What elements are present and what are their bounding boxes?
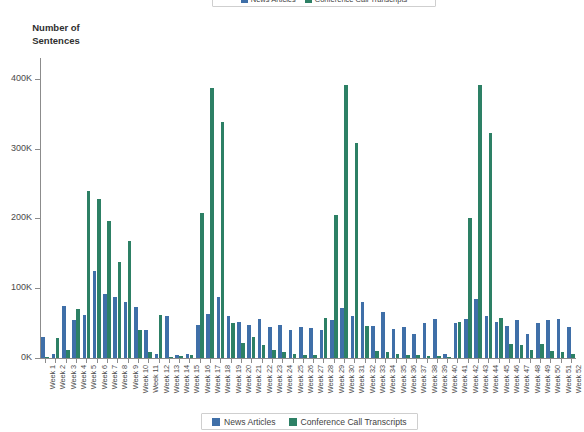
x-axis-tick-label: Week 49: [543, 365, 552, 393]
bar-news-articles: [464, 319, 468, 358]
y-axis-tick-label: 100K: [0, 282, 32, 292]
x-axis-tick-label: Week 32: [368, 365, 377, 393]
x-axis-tick-label: Week 28: [326, 365, 335, 393]
bar-conference-call-transcripts: [427, 356, 431, 358]
x-axis-tick-label: Week 19: [234, 365, 243, 393]
x-axis-tick-label: Week 30: [347, 365, 356, 393]
bar-conference-call-transcripts: [303, 355, 307, 358]
x-axis-tick-label: Week 25: [296, 365, 305, 393]
bar-conference-call-transcripts: [128, 241, 132, 358]
x-axis-tick: [468, 359, 469, 363]
bar-conference-call-transcripts: [447, 357, 451, 358]
x-axis-tick-label: Week 38: [430, 365, 439, 393]
x-axis-tick: [375, 359, 376, 363]
bar-conference-call-transcripts: [365, 326, 369, 358]
bar-conference-call-transcripts: [520, 345, 524, 358]
bar-news-articles: [289, 330, 293, 358]
bar-news-articles: [433, 319, 437, 358]
x-axis-tick-label: Week 27: [316, 365, 325, 393]
x-axis-tick: [427, 359, 428, 363]
x-axis-tick: [334, 359, 335, 363]
x-axis-tick-label: Week 3: [69, 365, 78, 389]
bar-news-articles: [351, 316, 355, 358]
x-axis-tick-label: Week 7: [110, 365, 119, 389]
bar-news-articles: [495, 322, 499, 358]
x-axis-tick: [272, 359, 273, 363]
bar-conference-call-transcripts: [375, 351, 379, 358]
x-axis-tick-label: Week 5: [89, 365, 98, 389]
x-axis-tick: [138, 359, 139, 363]
bar-news-articles: [206, 314, 210, 358]
bar-news-articles: [72, 320, 76, 358]
bar-conference-call-transcripts: [355, 143, 359, 358]
bar-conference-call-transcripts: [169, 357, 173, 358]
y-axis-tick-label: 0K: [0, 352, 32, 362]
x-axis-tick-label: Week 29: [337, 365, 346, 393]
x-axis-tick-label: Week 14: [182, 365, 191, 393]
x-axis-tick-label: Week 37: [419, 365, 428, 393]
legend-bottom-label-news: News Articles: [224, 417, 276, 427]
bar-conference-call-transcripts: [293, 354, 297, 358]
bar-news-articles: [361, 302, 365, 358]
legend-bottom-item-news: News Articles: [212, 417, 276, 427]
x-axis-tick: [365, 359, 366, 363]
x-axis-tick-label: Week 34: [388, 365, 397, 393]
legend-top: News Articles Conference Call Transcript…: [212, 0, 436, 7]
bar-conference-call-transcripts: [56, 338, 60, 358]
bar-news-articles: [423, 323, 427, 358]
x-axis-tick-label: Week 12: [162, 365, 171, 393]
x-axis-tick: [66, 359, 67, 363]
x-axis-tick: [385, 359, 386, 363]
x-axis-tick-label: Week 48: [533, 365, 542, 393]
x-axis-tick: [509, 359, 510, 363]
y-axis-tick: [35, 358, 40, 359]
bar-news-articles: [392, 329, 396, 358]
legend-bottom-item-calls: Conference Call Transcripts: [289, 417, 407, 427]
x-axis-tick-label: Week 45: [502, 365, 511, 393]
bar-conference-call-transcripts: [252, 337, 256, 358]
bar-news-articles: [165, 316, 169, 358]
bar-conference-call-transcripts: [458, 322, 462, 358]
x-axis-tick: [148, 359, 149, 363]
x-axis-tick: [323, 359, 324, 363]
bar-news-articles: [175, 355, 179, 358]
x-axis-tick: [303, 359, 304, 363]
y-axis-tick: [35, 149, 40, 150]
y-axis-tick: [35, 218, 40, 219]
bar-conference-call-transcripts: [571, 354, 575, 358]
x-axis-tick-label: Week 43: [481, 365, 490, 393]
chart-plot-area: 0K100K200K300K400K Week 1Week 2Week 3Wee…: [40, 58, 576, 358]
x-axis-tick: [128, 359, 129, 363]
x-axis-tick: [519, 359, 520, 363]
bar-news-articles: [93, 271, 97, 358]
bar-news-articles: [443, 354, 447, 358]
x-axis-tick: [571, 359, 572, 363]
bar-news-articles: [258, 319, 262, 358]
bar-news-articles: [515, 320, 519, 358]
bar-news-articles: [83, 315, 87, 358]
x-axis-tick: [262, 359, 263, 363]
bar-news-articles: [526, 334, 530, 358]
x-axis-tick: [530, 359, 531, 363]
x-axis-tick-label: Week 26: [306, 365, 315, 393]
bar-news-articles: [144, 330, 148, 358]
legend-bottom: News Articles Conference Call Transcript…: [201, 413, 418, 430]
x-axis-tick: [210, 359, 211, 363]
bar-news-articles: [299, 327, 303, 358]
y-axis-tick-label: 200K: [0, 212, 32, 222]
bar-news-articles: [113, 297, 117, 358]
x-axis-tick: [416, 359, 417, 363]
x-axis-tick-label: Week 41: [460, 365, 469, 393]
x-axis-tick-label: Week 51: [564, 365, 573, 393]
x-axis-tick: [76, 359, 77, 363]
bar-conference-call-transcripts: [272, 350, 276, 358]
bar-conference-call-transcripts: [509, 344, 513, 358]
x-axis-line: [40, 358, 576, 359]
x-axis-tick-label: Week 44: [491, 365, 500, 393]
legend-top-label-news: News Articles: [251, 0, 296, 4]
x-axis-tick: [159, 359, 160, 363]
y-axis-title: Number ofSentences: [8, 22, 104, 47]
bar-news-articles: [330, 320, 334, 358]
bar-conference-call-transcripts: [334, 215, 338, 358]
x-axis-tick-label: Week 4: [79, 365, 88, 389]
